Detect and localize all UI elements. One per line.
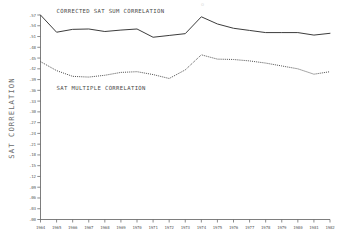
y-tick-label: .12 — [29, 174, 37, 179]
x-tick-label: 1975 — [213, 225, 223, 230]
x-tick-label: 1967 — [84, 225, 94, 230]
x-tick-label: 1981 — [309, 225, 319, 230]
x-tick-label: 1974 — [197, 225, 207, 230]
x-tick-group: 1964196519661967196819691970197119721973… — [36, 220, 335, 230]
y-tick-label: .39 — [29, 77, 37, 82]
y-tick-label: .21 — [29, 142, 37, 147]
series-label-corrected-sat-sum: CORRECTED SAT SUM CORRELATION — [57, 8, 165, 14]
y-tick-label: .45 — [29, 56, 37, 61]
x-tick-label: 1968 — [100, 225, 110, 230]
chart-figure: o .57.54.51.48.45.42.39.36.33.30.27.24.2… — [0, 0, 338, 244]
y-tick-label: .36 — [29, 88, 37, 93]
series-line-sat-multiple — [41, 55, 331, 79]
x-tick-label: 1965 — [52, 225, 62, 230]
x-tick-label: 1977 — [245, 225, 255, 230]
y-tick-label: .30 — [29, 109, 37, 114]
y-tick-label: .33 — [29, 99, 37, 104]
y-tick-label: .09 — [29, 185, 37, 190]
y-tick-label: .06 — [29, 195, 37, 200]
y-tick-label: .18 — [29, 152, 37, 157]
x-tick-label: 1972 — [165, 225, 175, 230]
y-tick-label: .00 — [29, 217, 37, 222]
x-tick-label: 1970 — [132, 225, 142, 230]
line-chart: .57.54.51.48.45.42.39.36.33.30.27.24.21.… — [0, 0, 338, 244]
x-tick-label: 1973 — [181, 225, 191, 230]
y-tick-label: .48 — [29, 45, 37, 50]
y-tick-label: .15 — [29, 163, 37, 168]
x-tick-label: 1976 — [229, 225, 239, 230]
y-tick-label: .42 — [29, 66, 37, 71]
x-tick-label: 1980 — [293, 225, 303, 230]
x-tick-label: 1969 — [116, 225, 126, 230]
y-tick-label: .54 — [29, 23, 37, 28]
series-label-sat-multiple: SAT MULTIPLE CORRELATION — [57, 85, 146, 91]
y-tick-label: .57 — [29, 13, 37, 18]
y-tick-label: .27 — [29, 120, 37, 125]
y-tick-label: .51 — [29, 34, 37, 39]
x-tick-label: 1971 — [148, 225, 158, 230]
x-tick-label: 1982 — [325, 225, 335, 230]
x-tick-label: 1964 — [36, 225, 46, 230]
y-tick-label: .03 — [29, 206, 37, 211]
x-tick-label: 1979 — [277, 225, 287, 230]
x-tick-label: 1966 — [68, 225, 78, 230]
y-axis-title: SAT CORRELATION — [7, 77, 16, 158]
y-tick-label: .24 — [29, 131, 37, 136]
series-line-corrected-sat-sum — [41, 15, 331, 37]
y-tick-group: .57.54.51.48.45.42.39.36.33.30.27.24.21.… — [29, 13, 41, 223]
x-tick-label: 1978 — [261, 225, 271, 230]
